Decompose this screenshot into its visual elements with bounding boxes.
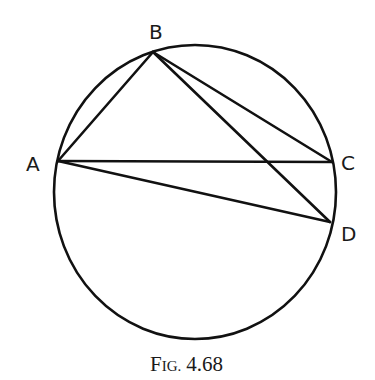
caption-prefix-rest: IG. <box>162 358 182 374</box>
segment-bd <box>153 52 330 222</box>
figure-caption: FIG.4.68 <box>150 352 223 376</box>
segment-ad <box>58 161 330 222</box>
segment-bc <box>153 52 332 162</box>
geometry-figure: B A C D FIG.4.68 <box>0 0 375 380</box>
point-label-a: A <box>26 152 40 176</box>
point-label-d: D <box>341 222 356 246</box>
segment-ac <box>58 161 332 162</box>
caption-prefix-initial: F <box>150 352 162 376</box>
point-label-b: B <box>149 20 163 44</box>
segment-ab <box>58 52 153 161</box>
point-label-c: C <box>341 151 355 175</box>
caption-number: 4.68 <box>186 352 223 376</box>
